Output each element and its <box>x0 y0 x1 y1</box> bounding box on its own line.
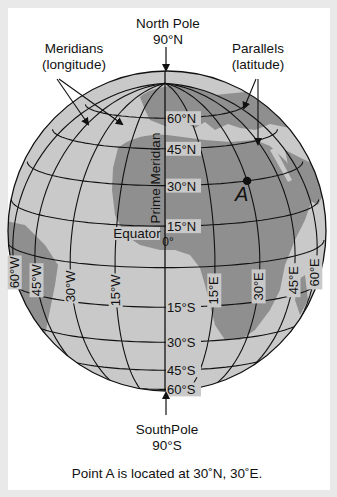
parallel-label: 60°N <box>167 111 196 126</box>
north-pole-lat: 90°N <box>153 32 183 47</box>
meridian-label-group: 60°E <box>307 255 322 289</box>
meridian-label: 30°W <box>63 270 78 303</box>
meridians-sublabel: (longitude) <box>42 57 106 72</box>
equator-label: Equator <box>113 226 161 241</box>
prime-meridian-label: Prime Meridian <box>148 133 163 224</box>
parallels-sublabel: (latitude) <box>232 57 285 72</box>
parallels-label: Parallels <box>232 41 284 56</box>
parallel-label: 60°S <box>167 382 196 397</box>
meridian-label-group: 30°W <box>63 269 78 303</box>
meridian-label: 45°W <box>29 264 44 297</box>
meridian-label-group: 15°E <box>206 273 221 307</box>
parallel-label: 15°S <box>167 300 196 315</box>
north-pole-label: North Pole <box>136 16 200 31</box>
point-a-label: A <box>234 183 248 205</box>
parallel-label: 30°N <box>167 179 196 194</box>
parallel-label: 30°S <box>167 335 196 350</box>
meridian-label: 15°E <box>206 276 221 305</box>
meridian-label: 45°E <box>286 266 301 295</box>
meridian-label: 60°W <box>7 256 22 289</box>
equator-value: 0° <box>162 235 174 249</box>
meridian-label: 30°E <box>251 272 266 301</box>
parallel-label: 45°S <box>167 363 196 378</box>
parallel-label: 45°N <box>167 142 196 157</box>
meridian-label-group: 45°W <box>29 263 44 297</box>
south-pole-lat: 90°S <box>152 438 181 453</box>
south-pole-label: SouthPole <box>136 422 198 437</box>
globe-diagram: 60°N45°N30°N15°N15°S30°S45°S60°S60°W45°W… <box>0 0 337 497</box>
meridian-label-group: 30°E <box>251 269 266 303</box>
meridian-label-group: 45°E <box>286 263 301 297</box>
meridian-label: 60°E <box>307 258 322 287</box>
parallel-label: 15°N <box>167 219 196 234</box>
caption: Point A is located at 30˚N, 30˚E. <box>72 466 263 481</box>
meridian-label: 15°W <box>108 274 123 307</box>
meridian-label-group: 15°W <box>108 273 123 307</box>
meridians-label: Meridians <box>45 41 104 56</box>
meridian-label-group: 60°W <box>7 255 22 289</box>
